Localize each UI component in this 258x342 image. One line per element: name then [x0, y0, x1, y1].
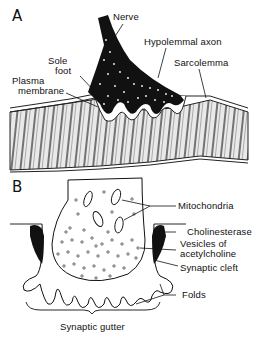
label-synaptic-gutter: Synaptic gutter	[60, 322, 125, 332]
label-mitochondria: Mitochondria	[178, 201, 234, 211]
neuromuscular-junction-diagram	[0, 0, 258, 342]
panel-b-letter: B	[12, 178, 22, 196]
label-synaptic-cleft: Synaptic cleft	[180, 263, 238, 273]
label-nerve: Nerve	[113, 12, 139, 22]
label-vesicles-line2: acetylcholine	[180, 249, 236, 259]
label-cholinesterase: Cholinesterase	[187, 227, 252, 237]
label-plasma-membrane-line2: membrane	[18, 86, 64, 96]
nerve-terminal	[88, 15, 184, 114]
label-folds: Folds	[182, 290, 206, 300]
panel-b-drawing	[10, 178, 186, 314]
label-sarcolemma: Sarcolemma	[174, 58, 228, 68]
label-hypolemmal-axon: Hypolemmal axon	[144, 37, 222, 47]
gutter-brace	[26, 302, 160, 314]
nerve-terminal-b	[52, 178, 145, 281]
label-sole-foot-line2: foot	[55, 66, 71, 76]
panel-a-letter: A	[12, 7, 22, 25]
